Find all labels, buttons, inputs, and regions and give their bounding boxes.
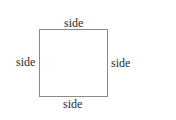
- square-shape: [39, 29, 108, 97]
- label-left-side: side: [16, 56, 35, 68]
- label-right-side: side: [111, 57, 130, 69]
- label-bottom-side: side: [63, 98, 82, 110]
- label-top-side: side: [64, 17, 83, 29]
